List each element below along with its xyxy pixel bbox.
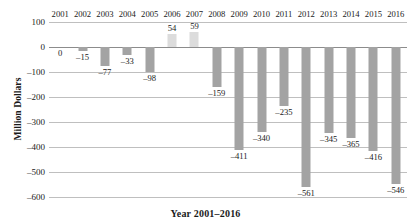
y-axis-tick-label: 0 (41, 42, 46, 52)
y-axis-tick-label: –200 (27, 92, 45, 102)
bar (123, 47, 132, 55)
category-label: 2008 (208, 9, 225, 19)
bar (168, 34, 177, 48)
bar-column: 20010 (49, 22, 71, 197)
category-label: 2002 (74, 9, 91, 19)
bar-value-label: –33 (121, 56, 134, 66)
bar-value-label: –340 (253, 133, 270, 143)
bar-column: 2004–33 (116, 22, 138, 197)
bar (100, 47, 109, 66)
bar-chart: Million Dollars 1000–100–200–300–400–500… (0, 0, 411, 224)
bar (347, 47, 356, 138)
bar (257, 47, 266, 132)
bar-value-label: 59 (190, 21, 199, 31)
bar-column: 2009–411 (228, 22, 250, 197)
y-axis-title: Million Dollars (13, 44, 23, 174)
category-label: 2010 (253, 9, 270, 19)
bar-column: 200654 (161, 22, 183, 197)
bar-value-label: –416 (365, 152, 382, 162)
bar-column: 2013–345 (318, 22, 340, 197)
category-label: 2016 (387, 9, 404, 19)
bar (145, 47, 154, 72)
category-label: 2007 (186, 9, 203, 19)
bar-column: 2002–15 (71, 22, 93, 197)
category-label: 2001 (52, 9, 69, 19)
bar (212, 47, 221, 87)
bar-column: 200759 (183, 22, 205, 197)
y-axis-tick-label: 100 (32, 17, 46, 27)
y-axis-tick-label: –600 (27, 192, 45, 202)
bar (235, 47, 244, 150)
bar (391, 47, 400, 184)
bar (369, 47, 378, 151)
bar-value-label: –561 (298, 188, 315, 198)
y-axis-tick-label: –400 (27, 142, 45, 152)
category-label: 2012 (298, 9, 315, 19)
category-label: 2005 (141, 9, 158, 19)
bar (324, 47, 333, 133)
bar (302, 47, 311, 187)
bar-value-label: –345 (320, 134, 337, 144)
x-axis-title: Year 2001–2016 (0, 208, 411, 219)
bar-value-label: –15 (76, 52, 89, 62)
bar-value-label: –77 (98, 67, 111, 77)
category-label: 2015 (365, 9, 382, 19)
category-label: 2004 (119, 9, 136, 19)
gridline (49, 197, 407, 198)
y-axis-tick-label: –500 (27, 167, 45, 177)
bar-column: 2014–365 (340, 22, 362, 197)
bar-value-label: –159 (208, 88, 225, 98)
plot-area: 1000–100–200–300–400–500–600 200102002–1… (49, 22, 407, 197)
category-label: 2013 (320, 9, 337, 19)
bar-value-label: 54 (168, 23, 177, 33)
bar (78, 47, 87, 51)
bar-column: 2012–561 (295, 22, 317, 197)
bar-value-label: –546 (387, 185, 404, 195)
bar-column: 2008–159 (206, 22, 228, 197)
category-label: 2014 (342, 9, 359, 19)
bar-value-label: –365 (342, 139, 359, 149)
bar-column: 2016–546 (385, 22, 407, 197)
bar (190, 32, 199, 47)
bar (279, 47, 288, 106)
bar-value-label: –235 (275, 107, 292, 117)
category-label: 2011 (276, 9, 293, 19)
bar-column: 2011–235 (273, 22, 295, 197)
bar-columns: 200102002–152003–772004–332005–982006542… (49, 22, 407, 197)
category-label: 2009 (231, 9, 248, 19)
category-label: 2006 (163, 9, 180, 19)
y-axis-tick-label: –100 (27, 67, 45, 77)
bar-value-label: –98 (143, 73, 156, 83)
bar-column: 2003–77 (94, 22, 116, 197)
bar-column: 2015–416 (362, 22, 384, 197)
bar-value-label: –411 (231, 151, 248, 161)
bar-column: 2010–340 (250, 22, 272, 197)
bar-column: 2005–98 (139, 22, 161, 197)
bar-value-label: 0 (58, 48, 62, 58)
category-label: 2003 (96, 9, 113, 19)
y-axis-tick-label: –300 (27, 117, 45, 127)
